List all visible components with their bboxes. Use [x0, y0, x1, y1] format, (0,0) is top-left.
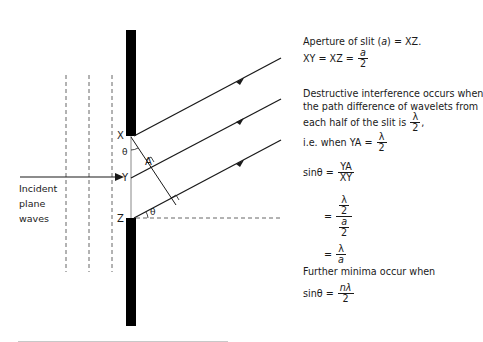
label-z: Z [117, 213, 124, 224]
sin-equation-1: sinθ = YAXY [303, 162, 355, 183]
label-theta-top: θ [122, 147, 128, 157]
sin-equation-3: = λa [324, 244, 347, 265]
sin-equation-4: sinθ = nλ2 [303, 283, 355, 304]
fraction-lambda-over-2: λ2 [339, 195, 349, 216]
compound-numerator: λ2 [336, 195, 352, 217]
fraction-lambda-over-2: λ2 [410, 112, 420, 133]
denominator: 2 [339, 206, 349, 216]
ray-from-x [134, 58, 281, 136]
equals: = [324, 249, 332, 260]
ya-text: i.e. when YA = [303, 137, 372, 148]
sin-lhs: sinθ = [303, 288, 334, 299]
ray-y-arrow-icon [236, 118, 244, 125]
half-slit-text: each half of the slit is [303, 117, 406, 128]
xy-equation: XY = XZ = a2 [303, 48, 369, 69]
denominator: 2 [410, 123, 420, 133]
comma: , [421, 117, 424, 128]
fraction-lambda-over-2: λ2 [377, 132, 387, 153]
label-x: X [117, 130, 124, 141]
angle-arc-bottom [146, 212, 148, 218]
label-a: A [145, 156, 152, 167]
denominator: XY [338, 173, 354, 183]
destructive-line-4: i.e. when YA = λ2 [303, 132, 388, 153]
denominator: 2 [377, 143, 387, 153]
fraction-a-over-2: a2 [339, 217, 349, 238]
denominator: 2 [358, 59, 368, 69]
xy-prefix: XY = XZ = [303, 53, 354, 64]
incident-label-1: Incident [19, 183, 58, 194]
barrier-bottom [126, 218, 136, 326]
ray-from-z [134, 140, 281, 218]
sin-lhs: sinθ = [303, 167, 334, 178]
compound-fraction: λ2 a2 [336, 195, 352, 238]
diffraction-diagram: X Y Z A θ θ Incident plane waves Apertur… [0, 0, 483, 342]
wavefronts [66, 75, 112, 272]
ray-arrowheads [236, 78, 244, 167]
equals: = [324, 211, 332, 222]
fraction-n-lambda-over-2: nλ2 [338, 283, 354, 304]
destructive-line-3: each half of the slit is λ2, [303, 112, 424, 133]
sin-equation-2: = λ2 a2 [324, 195, 353, 238]
aperture-text: Aperture of slit ( [303, 36, 381, 47]
angle-arc-top [131, 148, 138, 150]
fraction-a-over-2: a2 [358, 48, 368, 69]
ray-from-y [131, 99, 281, 178]
denominator: 2 [339, 228, 349, 238]
destructive-line-1: Destructive interference occurs when [303, 88, 483, 100]
label-theta-bottom: θ [150, 207, 156, 217]
perpendicular-xa [131, 137, 176, 205]
barrier-top [126, 30, 136, 136]
denominator: 2 [338, 294, 354, 304]
fraction-ya-over-xy: YAXY [338, 162, 354, 183]
incident-label-2: plane [19, 198, 46, 209]
label-y: Y [121, 172, 129, 183]
further-minima-text: Further minima occur when [303, 266, 435, 278]
fraction-lambda-over-a: λa [336, 244, 346, 265]
compound-denominator: a2 [336, 217, 352, 238]
aperture-end: ) = XZ. [387, 36, 421, 47]
incident-label-3: waves [19, 213, 49, 224]
denominator: a [336, 255, 346, 265]
